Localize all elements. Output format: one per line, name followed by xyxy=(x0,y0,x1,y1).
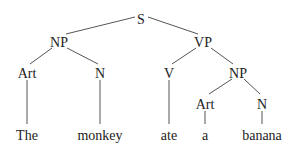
leaf-word-a: a xyxy=(202,128,209,143)
syntax-tree: SNPVPArtNVNPArtNThemonkeyateabanana xyxy=(0,0,296,149)
leaf-word-ate: ate xyxy=(161,128,177,143)
edge-s-vp xyxy=(148,17,198,34)
edge-vp-v xyxy=(172,48,196,64)
edge-np2-art2 xyxy=(209,79,232,94)
tree-edges xyxy=(27,17,262,124)
tree-nodes: SNPVPArtNVNPArtNThemonkeyateabanana xyxy=(16,12,282,143)
tree-node-art: Art xyxy=(18,66,37,81)
tree-node-np: NP xyxy=(229,66,247,81)
leaf-word-banana: banana xyxy=(242,128,282,143)
tree-node-v: V xyxy=(164,66,174,81)
leaf-word-monkey: monkey xyxy=(77,128,122,143)
edge-np1-art1 xyxy=(30,48,52,64)
edge-np2-n2 xyxy=(244,79,260,94)
edge-s-np1 xyxy=(66,17,135,34)
leaf-word-the: The xyxy=(16,128,38,143)
tree-node-art: Art xyxy=(196,97,215,112)
tree-node-n: N xyxy=(95,66,105,81)
tree-node-n: N xyxy=(257,97,267,112)
edge-np1-n1 xyxy=(67,48,98,64)
edge-vp-np2 xyxy=(211,48,233,64)
tree-node-np: NP xyxy=(50,35,68,50)
tree-node-vp: VP xyxy=(194,35,212,50)
tree-node-s: S xyxy=(137,12,145,27)
